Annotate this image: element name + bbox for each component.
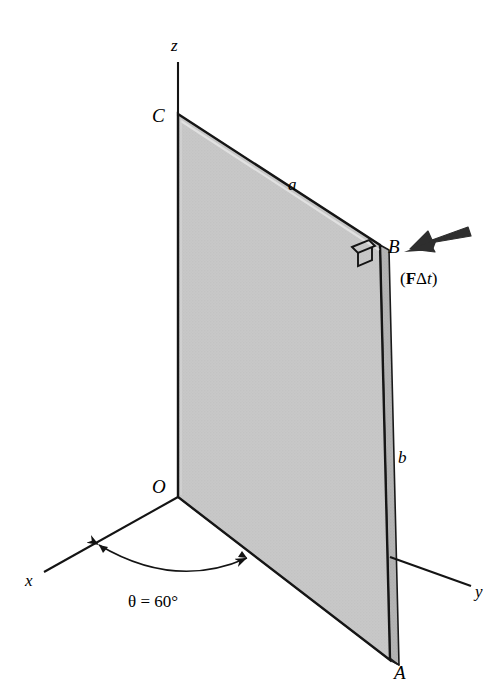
impulse-delta-symbol: Δ [416,269,427,288]
axis-label-x: x [24,571,33,590]
point-label-o: O [152,476,166,497]
plate-impulse-diagram: z x y C B O A a b θ = 60° (FΔt) [0,0,501,690]
point-label-a: A [392,662,406,683]
point-label-b: B [388,236,400,257]
x-axis [44,497,178,572]
impulse-paren-close: ) [432,269,438,288]
impulse-arrow [404,227,471,252]
axis-label-z: z [170,36,178,55]
impulse-force-symbol: F [406,269,416,288]
theta-angle-label: θ = 60° [128,592,178,611]
dimension-label-b: b [398,448,407,467]
axis-label-y: y [473,582,483,601]
impulse-label: (FΔt) [400,269,437,288]
figure-root: z x y C B O A a b θ = 60° (FΔt) [0,0,501,690]
theta-arc-head-right [238,551,247,558]
point-label-c: C [152,105,165,126]
rectangular-plate [178,114,390,660]
y-axis [390,557,471,586]
theta-arc [99,545,247,571]
dimension-label-a: a [288,175,297,194]
